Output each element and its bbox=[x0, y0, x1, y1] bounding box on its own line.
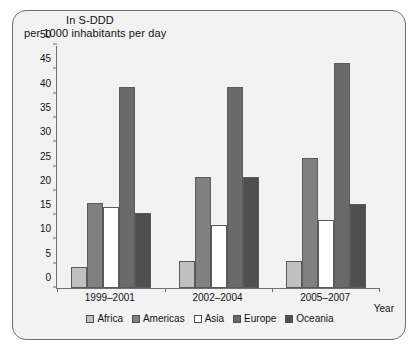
y-axis-tick-mark bbox=[53, 44, 57, 45]
y-axis-tick-label: 25 bbox=[27, 150, 51, 161]
bar-asia-0[interactable] bbox=[103, 207, 119, 288]
y-axis-tick-label: 50 bbox=[27, 29, 51, 40]
x-axis-category-label: 2005–2007 bbox=[271, 292, 379, 303]
legend-swatch-icon bbox=[285, 315, 293, 323]
bars-layer bbox=[57, 46, 379, 288]
y-axis-tick-label: 0 bbox=[27, 272, 51, 283]
legend-label: Europe bbox=[244, 313, 276, 324]
plot-area: 05101520253035404550 bbox=[56, 46, 379, 289]
x-axis-category-label: 1999–2001 bbox=[56, 292, 164, 303]
legend-label: Asia bbox=[205, 313, 224, 324]
legend-item-africa[interactable]: Africa bbox=[86, 313, 123, 324]
bar-europe-0[interactable] bbox=[119, 87, 135, 288]
legend-swatch-icon bbox=[132, 315, 140, 323]
y-axis-tick-label: 20 bbox=[27, 174, 51, 185]
chart-title-line-2: per 1000 inhabitants per day bbox=[24, 27, 284, 40]
y-axis-tick-label: 15 bbox=[27, 199, 51, 210]
bar-group bbox=[71, 46, 151, 288]
y-axis-tick-label: 40 bbox=[27, 77, 51, 88]
bar-group bbox=[286, 46, 366, 288]
chart-title: In S-DDD per 1000 inhabitants per day bbox=[24, 14, 284, 40]
bar-americas-0[interactable] bbox=[87, 203, 103, 288]
legend-swatch-icon bbox=[233, 315, 241, 323]
chart-figure: In S-DDD per 1000 inhabitants per day 05… bbox=[0, 0, 420, 353]
bar-asia-2[interactable] bbox=[318, 220, 334, 288]
x-axis-category-label: 2002–2004 bbox=[164, 292, 272, 303]
legend-swatch-icon bbox=[194, 315, 202, 323]
y-axis-tick-label: 5 bbox=[27, 247, 51, 258]
chart-title-line-1: In S-DDD bbox=[66, 14, 284, 27]
bar-africa-0[interactable] bbox=[71, 267, 87, 288]
legend-label: Africa bbox=[97, 313, 123, 324]
y-axis-tick-label: 45 bbox=[27, 53, 51, 64]
legend-item-europe[interactable]: Europe bbox=[233, 313, 276, 324]
bar-oceania-0[interactable] bbox=[135, 213, 151, 288]
bar-group bbox=[179, 46, 259, 288]
legend-item-asia[interactable]: Asia bbox=[194, 313, 224, 324]
bar-asia-1[interactable] bbox=[211, 225, 227, 288]
x-axis-tick-mark bbox=[379, 288, 380, 292]
legend-item-oceania[interactable]: Oceania bbox=[285, 313, 333, 324]
bar-oceania-2[interactable] bbox=[350, 204, 366, 288]
bar-oceania-1[interactable] bbox=[243, 177, 259, 288]
bar-americas-1[interactable] bbox=[195, 177, 211, 288]
bar-africa-2[interactable] bbox=[286, 261, 302, 288]
y-axis-tick-label: 30 bbox=[27, 126, 51, 137]
legend-item-americas[interactable]: Americas bbox=[132, 313, 185, 324]
bar-europe-1[interactable] bbox=[227, 87, 243, 288]
y-axis-tick-label: 10 bbox=[27, 223, 51, 234]
bar-americas-2[interactable] bbox=[302, 158, 318, 288]
bar-europe-2[interactable] bbox=[334, 63, 350, 289]
chart-legend: AfricaAmericasAsiaEuropeOceania bbox=[0, 313, 420, 324]
bar-africa-1[interactable] bbox=[179, 261, 195, 288]
y-axis-tick-label: 35 bbox=[27, 101, 51, 112]
legend-swatch-icon bbox=[86, 315, 94, 323]
legend-label: Oceania bbox=[296, 313, 333, 324]
legend-label: Americas bbox=[143, 313, 185, 324]
